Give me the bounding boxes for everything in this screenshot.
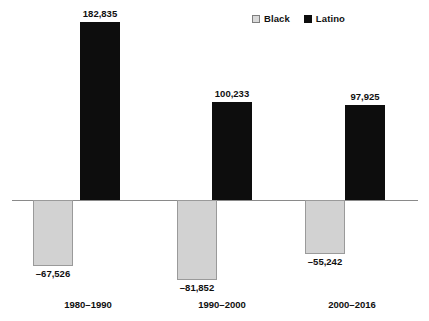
x-axis-label-1980-1990: 1980–1990	[48, 299, 128, 310]
x-axis-label-2000-2016: 2000–2016	[312, 299, 392, 310]
bar-black-1980-1990	[33, 200, 73, 266]
bar-latino-2000-2016	[345, 105, 385, 200]
x-axis-label-1990-2000: 1990–2000	[182, 299, 262, 310]
bar-latino-1980-1990	[80, 22, 120, 200]
bar-black-1990-2000	[177, 200, 217, 280]
value-label-black-1980-1990: –67,526	[13, 268, 93, 279]
bar-chart: Black Latino 182,835 100,233 97,925 –67,…	[0, 0, 429, 321]
bar-black-2000-2016	[305, 200, 345, 254]
bar-latino-1990-2000	[212, 102, 252, 200]
plot-area: 182,835 100,233 97,925 –67,526 –81,852 –…	[0, 0, 429, 321]
value-label-latino-1990-2000: 100,233	[192, 88, 272, 99]
value-label-latino-2000-2016: 97,925	[325, 91, 405, 102]
value-label-latino-1980-1990: 182,835	[60, 8, 140, 19]
value-label-black-1990-2000: –81,852	[157, 282, 237, 293]
value-label-black-2000-2016: –55,242	[285, 256, 365, 267]
